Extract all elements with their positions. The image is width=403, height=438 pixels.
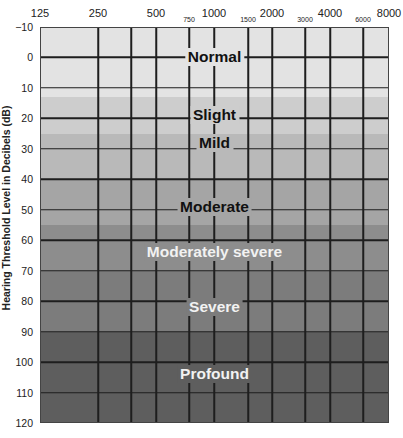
x-minor-tick-label: 750: [183, 16, 195, 23]
x-tick-label: 8000: [377, 7, 401, 19]
x-tick-label: 500: [147, 7, 165, 19]
plot-area: NormalSlightMildModerateModerately sever…: [40, 27, 389, 423]
x-tick-label: 125: [31, 7, 49, 19]
y-tick-label: 110: [0, 387, 33, 399]
band-label: Moderately severe: [144, 243, 285, 261]
grid-vline: [97, 27, 99, 423]
y-axis-label: Hearing Threshold Level in Decibels (dB): [0, 106, 12, 311]
grid-vline: [188, 27, 190, 423]
grid-vline: [155, 27, 157, 423]
x-tick-label: 250: [89, 7, 107, 19]
y-tick-label: 90: [0, 326, 33, 338]
x-minor-tick-label: 6000: [355, 16, 371, 23]
y-tick-label: 100: [0, 356, 33, 368]
grid-vline: [130, 27, 132, 423]
band-label: Mild: [196, 134, 233, 152]
y-tick-label: 120: [0, 417, 33, 429]
band-label: Profound: [177, 365, 252, 383]
grid-vline: [271, 27, 273, 423]
grid-vline: [304, 27, 306, 423]
grid-vline: [213, 27, 215, 423]
band-label: Severe: [186, 298, 243, 316]
grid-vline: [362, 27, 364, 423]
band-label: Slight: [190, 106, 239, 124]
grid-vline: [247, 27, 249, 423]
y-tick-label: 0: [0, 51, 33, 63]
x-tick-label: 2000: [260, 7, 284, 19]
y-tick-label: −10: [0, 21, 33, 33]
band-label: Moderate: [177, 198, 252, 216]
x-minor-tick-label: 3000: [297, 16, 313, 23]
x-tick-label: 1000: [202, 7, 226, 19]
y-tick-label: 10: [0, 82, 33, 94]
grid-vline: [329, 27, 331, 423]
band-label: Normal: [185, 48, 244, 66]
x-tick-label: 4000: [318, 7, 342, 19]
x-minor-tick-label: 1500: [240, 16, 256, 23]
